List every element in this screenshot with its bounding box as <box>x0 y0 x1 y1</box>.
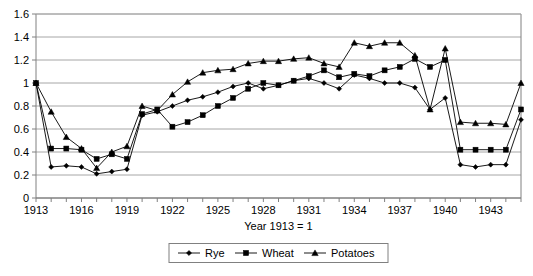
x-tick-label: 1940 <box>433 204 457 216</box>
y-tick-label: 1.2 <box>14 54 29 66</box>
chart-container: 00.20.40.60.811.21.41.6 1913191619191922… <box>0 0 533 276</box>
data-point-marker <box>140 112 145 117</box>
data-point-marker <box>261 81 266 86</box>
x-tick-label: 1922 <box>160 204 184 216</box>
x-tick-label: 1913 <box>24 204 48 216</box>
x-tick-label: 1931 <box>297 204 321 216</box>
y-tick-label: 0.6 <box>14 123 29 135</box>
legend-label: Rye <box>205 247 225 259</box>
data-point-marker <box>276 83 281 88</box>
data-point-marker <box>200 113 205 118</box>
data-point-marker <box>382 68 387 73</box>
data-point-marker <box>503 147 508 152</box>
data-point-marker <box>397 64 402 69</box>
y-tick-label: 1.4 <box>14 31 29 43</box>
data-point-marker <box>231 95 236 100</box>
chart-legend: RyeWheatPotatoes <box>169 244 388 263</box>
data-point-marker <box>64 146 69 151</box>
y-tick-label: 0.4 <box>14 146 29 158</box>
data-point-marker <box>473 147 478 152</box>
chart-background <box>0 0 533 276</box>
data-point-marker <box>458 147 463 152</box>
data-point-marker <box>124 156 129 161</box>
y-tick-label: 1 <box>23 77 29 89</box>
legend-label: Potatoes <box>331 247 375 259</box>
y-tick-label: 1.6 <box>14 8 29 20</box>
legend-label: Wheat <box>262 247 294 259</box>
data-point-marker <box>291 78 296 83</box>
y-tick-label: 0 <box>23 192 29 204</box>
x-axis-title: Year 1913 = 1 <box>244 220 312 232</box>
line-chart: 00.20.40.60.811.21.41.6 1913191619191922… <box>0 0 533 276</box>
y-tick-label: 0.2 <box>14 169 29 181</box>
data-point-marker <box>428 64 433 69</box>
data-point-marker <box>185 120 190 125</box>
data-point-marker <box>246 86 251 91</box>
x-tick-label: 1928 <box>251 204 275 216</box>
x-tick-label: 1934 <box>342 204 366 216</box>
y-tick-label: 0.8 <box>14 100 29 112</box>
data-point-marker <box>170 124 175 129</box>
data-point-marker <box>352 71 357 76</box>
data-point-marker <box>49 146 54 151</box>
data-point-marker <box>488 147 493 152</box>
x-tick-label: 1919 <box>115 204 139 216</box>
data-point-marker <box>367 74 372 79</box>
data-point-marker <box>94 156 99 161</box>
x-tick-label: 1925 <box>206 204 230 216</box>
x-tick-label: 1943 <box>478 204 502 216</box>
data-point-marker <box>337 75 342 80</box>
data-point-marker <box>215 104 220 109</box>
data-point-marker <box>306 74 311 79</box>
data-point-marker <box>321 68 326 73</box>
x-tick-label: 1916 <box>69 204 93 216</box>
legend-marker-square <box>243 250 248 255</box>
x-tick-label: 1937 <box>388 204 412 216</box>
y-axis-tick-labels: 00.20.40.60.811.21.41.6 <box>14 8 29 204</box>
data-point-marker <box>519 107 524 112</box>
